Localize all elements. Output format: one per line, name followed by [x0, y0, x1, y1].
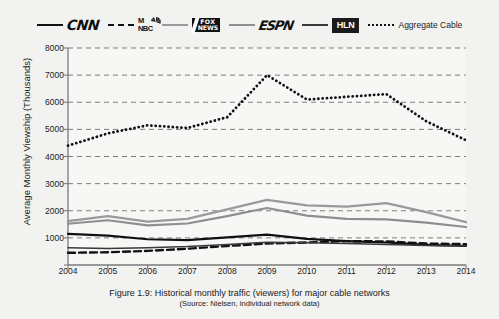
legend-swatch-aggregate-cable-icon	[368, 24, 394, 26]
legend-swatch-foxnews-icon	[162, 24, 188, 26]
foxnews-logo-icon: FOX NEWS	[192, 18, 220, 33]
x-axis-tick-2005: 2005	[98, 266, 117, 276]
hln-logo-icon: HLN	[332, 18, 360, 33]
x-axis-tick-2012: 2012	[377, 266, 396, 276]
legend-swatch-cnn-icon	[37, 24, 63, 26]
legend-item-foxnews: FOX NEWS	[162, 18, 220, 33]
legend-swatch-espn-icon	[229, 24, 255, 26]
espn-logo-icon: ESPN	[258, 18, 295, 33]
nbc-peacock-icon	[150, 16, 162, 28]
x-axis-tick-2009: 2009	[258, 266, 277, 276]
figure-caption: Figure 1.9: Historical monthly traffic (…	[0, 288, 499, 308]
x-axis-tick-labels: 2004200520062007200820092010201120122013…	[68, 266, 466, 284]
legend-label-aggregate-cable: Aggregate Cable	[398, 20, 462, 30]
cnn-logo-icon: CNN	[66, 18, 100, 32]
x-axis-tick-2006: 2006	[138, 266, 157, 276]
x-axis-tick-2007: 2007	[178, 266, 197, 276]
x-axis-tick-2013: 2013	[417, 266, 436, 276]
x-axis-tick-2014: 2014	[457, 266, 476, 276]
legend-item-aggregate-cable: Aggregate Cable	[368, 20, 462, 30]
legend-item-msnbc: M NBC	[108, 17, 153, 32]
x-axis-tick-2004: 2004	[59, 266, 78, 276]
legend-item-espn: ESPN	[229, 18, 293, 33]
chart-canvas	[0, 40, 499, 272]
foxnews-logo-line2: NEWS	[198, 25, 218, 31]
caption-line-2: (Source: Nielsen, individual network dat…	[0, 299, 499, 308]
plot-area: Average Monthly Viewship (Thousands) 100…	[0, 40, 499, 272]
legend-swatch-msnbc-icon	[108, 24, 134, 26]
legend-swatch-hln-icon	[302, 24, 328, 26]
caption-line-1: Figure 1.9: Historical monthly traffic (…	[0, 288, 499, 298]
x-axis-tick-2008: 2008	[218, 266, 237, 276]
chart-legend: CNN M NBC	[0, 12, 499, 38]
legend-item-cnn: CNN	[37, 18, 99, 32]
figure-container: CNN M NBC	[0, 0, 499, 319]
legend-item-hln: HLN	[302, 18, 360, 33]
x-axis-tick-2011: 2011	[337, 266, 355, 276]
msnbc-logo-icon: M NBC	[138, 17, 153, 32]
x-axis-tick-2010: 2010	[297, 266, 316, 276]
